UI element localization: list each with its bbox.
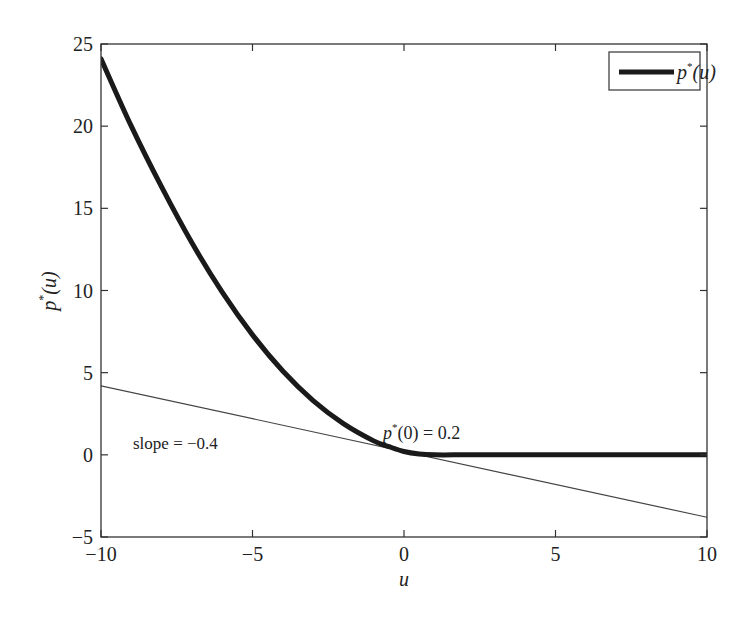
annotation-p0-symbol: p (381, 423, 392, 443)
axis-ticks (101, 44, 707, 537)
y-tick-label: 20 (73, 115, 93, 137)
x-tick-label: 10 (697, 543, 717, 565)
x-tick-label: −5 (242, 543, 263, 565)
axis-tick-labels: −10−50510−50510152025 (72, 33, 717, 565)
x-tick-label: 5 (551, 543, 561, 565)
y-axis-label-symbol: p (38, 301, 61, 313)
series-line-p-star (101, 59, 707, 455)
y-axis-label: p*(u) (36, 271, 61, 313)
x-tick-label: 0 (399, 543, 409, 565)
chart-figure: −10−50510−50510152025 slope = −0.4 p*(0)… (0, 0, 750, 623)
y-tick-label: 25 (73, 33, 93, 55)
y-tick-label: 0 (83, 444, 93, 466)
legend-label: p*(u) (675, 60, 716, 84)
y-tick-label: 5 (83, 362, 93, 384)
legend-label-rest: (u) (693, 61, 717, 84)
x-axis-label: u (399, 568, 409, 590)
y-tick-label: 15 (73, 197, 93, 219)
legend-label-symbol: p (675, 61, 687, 84)
axes-box (101, 44, 707, 537)
annotation-p0-rest: (0) = 0.2 (398, 423, 461, 444)
annotation-slope: slope = −0.4 (133, 434, 218, 453)
y-tick-label: 10 (73, 280, 93, 302)
annotation-p0: p*(0) = 0.2 (381, 421, 460, 444)
y-tick-label: −5 (72, 526, 93, 548)
y-axis-label-rest: (u) (38, 271, 61, 295)
legend: p*(u) (609, 52, 716, 90)
